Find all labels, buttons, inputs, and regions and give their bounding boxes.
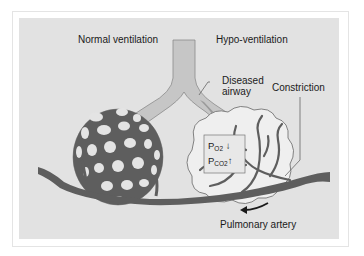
- pco2-label: PCO2↑: [208, 156, 232, 169]
- label-normal-ventilation: Normal ventilation: [78, 34, 158, 45]
- flow-arrow-icon: [244, 203, 268, 210]
- label-diseased-airway-line2: airway: [222, 86, 251, 97]
- arrow-up-icon: ↑: [228, 155, 233, 166]
- arrow-down-icon: ↓: [226, 140, 231, 151]
- label-hypo-ventilation: Hypo-ventilation: [216, 34, 288, 45]
- normal-alveolus: [73, 108, 163, 205]
- po2-label: PO2 ↓: [208, 141, 230, 154]
- ventilation-perfusion-diagram: [0, 0, 364, 256]
- label-constriction: Constriction: [272, 82, 325, 93]
- label-diseased-airway-line1: Diseased: [222, 75, 264, 86]
- label-pulmonary-artery: Pulmonary artery: [220, 219, 296, 230]
